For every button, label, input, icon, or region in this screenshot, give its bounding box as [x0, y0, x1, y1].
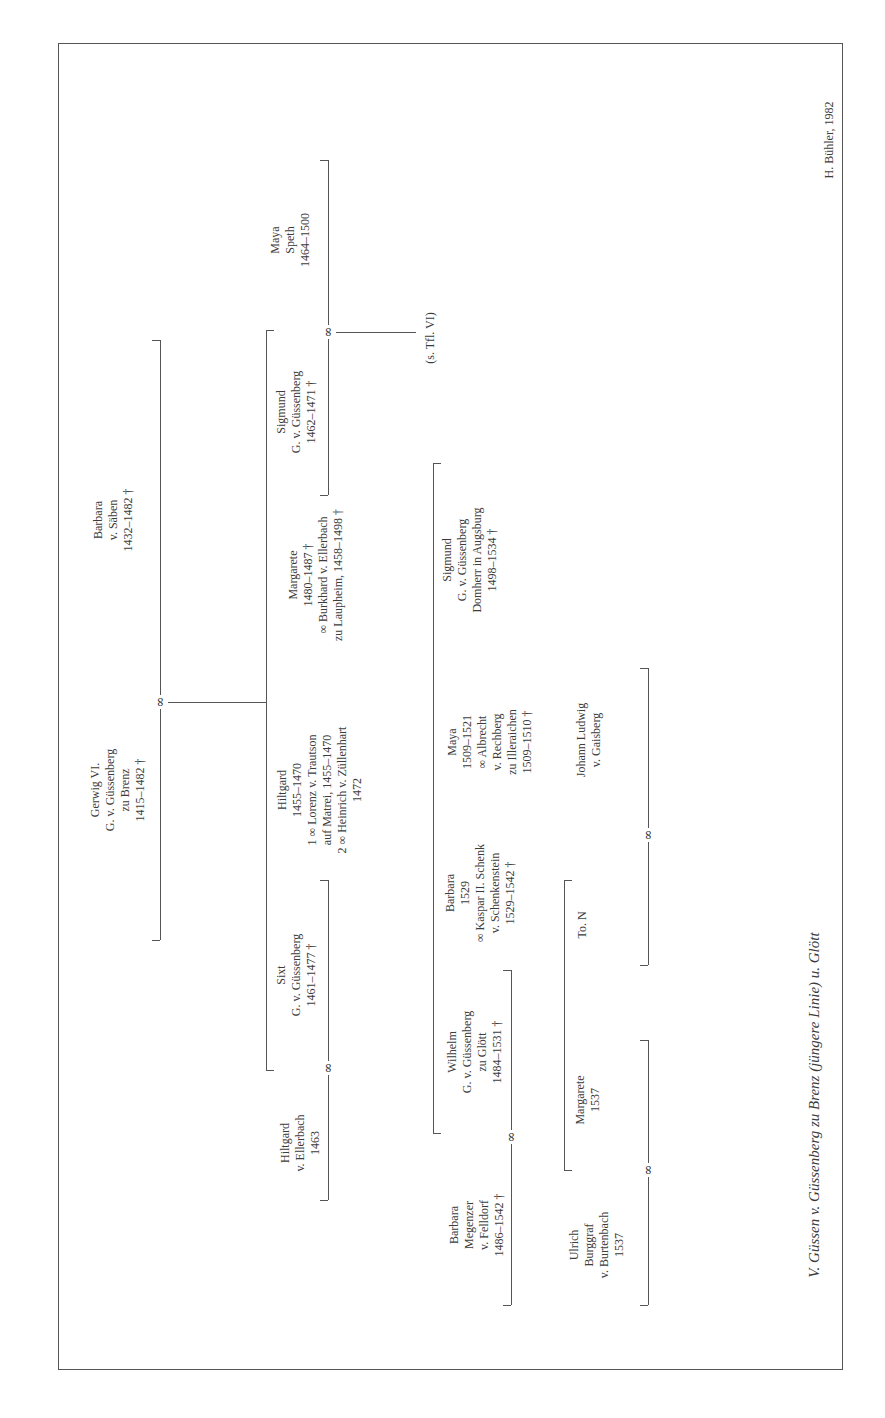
sigmund-cap-top	[320, 160, 328, 161]
sigmund-descent-line	[336, 332, 416, 333]
person-hiltgard: Hiltgard 1455–1470 1 ∞ Lorenz v. Trautso…	[275, 727, 365, 854]
person-sigmund: Sigmund G. v. Güssenberg 1462–1471 †	[274, 371, 319, 453]
gen3-bracket-cap-bottom	[433, 1133, 441, 1134]
gen4-bracket-cap-bottom	[564, 1170, 572, 1171]
johann-couple-line	[648, 668, 649, 965]
margarete-cap-top	[640, 1040, 648, 1041]
gen1-cap-top	[152, 340, 160, 341]
marriage-symbol-johann: ∞	[641, 828, 655, 842]
marriage-symbol-sigmund: ∞	[321, 325, 335, 339]
author-credit: H. Bühler, 1982	[822, 102, 837, 179]
person-wilhelm: Wilhelm G. v. Güssenberg zu Glött 1484–1…	[445, 1011, 505, 1093]
person-gerwig-vi: Gerwig VI. G. v. Güssenberg zu Brenz 141…	[88, 749, 148, 831]
person-maya: Maya 1509–1521 ∞ Albrecht v. Rechberg zu…	[445, 709, 535, 775]
gen3-sibling-bracket	[433, 463, 434, 1133]
chart-title: V. Güssen v. Güssenberg zu Brenz (jünger…	[807, 932, 822, 1277]
gen2-sibling-bracket	[266, 330, 267, 1070]
sixt-cap-top	[320, 880, 328, 881]
sigmund-cap-bottom	[320, 495, 328, 496]
johann-cap-top	[640, 668, 648, 669]
wilhelm-cap-top	[503, 970, 511, 971]
sixt-couple-line	[328, 880, 329, 1200]
person-barbara: Barbara 1529 ∞ Kaspar II. Schenk v. Sche…	[443, 844, 518, 942]
gen1-cap-bottom	[152, 940, 160, 941]
person-ulrich: Ulrich Burggraf v. Burtenbach 1537	[567, 1212, 627, 1279]
marriage-symbol-sixt: ∞	[321, 1061, 335, 1075]
person-margarete: Margarete 1480–1487 † ∞ Burkhard v. Elle…	[286, 509, 346, 641]
person-to-n: To. N	[575, 911, 590, 938]
margarete-cap-bottom	[640, 1305, 648, 1306]
marriage-symbol-margarete: ∞	[641, 1163, 655, 1177]
person-maya-speth: Maya Speth 1464–1500	[268, 213, 313, 267]
johann-cap-bottom	[640, 965, 648, 966]
marriage-symbol-wilhelm: ∞	[504, 1130, 518, 1144]
cross-reference-tfl-vi: (s. Tfl. VI)	[423, 312, 438, 364]
wilhelm-cap-bottom	[503, 1305, 511, 1306]
gen4-sibling-bracket	[564, 880, 565, 1170]
gen2-bracket-cap-bottom	[266, 1070, 274, 1071]
person-hiltgard-v-ellerbach: Hiltgard v. Ellerbach 1463	[278, 1114, 323, 1171]
gen2-bracket-cap-top	[266, 330, 274, 331]
person-sixt: Sixt G. v. Güssenberg 1461–1477 †	[274, 934, 319, 1016]
person-barbara-v-saeben: Barbara v. Säben 1432–1482 †	[91, 489, 136, 552]
person-johann-ludwig: Johann Ludwig v. Gaisberg	[574, 703, 604, 777]
gen4-bracket-cap-top	[564, 880, 572, 881]
marriage-symbol-gen1: ∞	[153, 695, 167, 709]
person-sigmund-domherr: Sigmund G. v. Güssenberg Domherr in Augs…	[440, 507, 500, 612]
chart-frame	[58, 43, 843, 1370]
sixt-cap-bottom	[320, 1200, 328, 1201]
gen1-couple-line	[160, 340, 161, 940]
gen1-descent-line	[168, 702, 266, 703]
person-margarete-1537: Margarete 1537	[573, 1075, 603, 1124]
person-barbara-megenzer: Barbara Megenzer v. Felldorf 1486–1542 †	[447, 1194, 507, 1257]
gen3-bracket-cap-top	[433, 463, 441, 464]
